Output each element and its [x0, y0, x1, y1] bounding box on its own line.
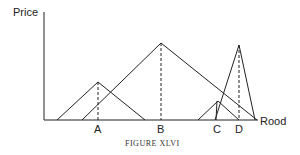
figure-caption: FIGURE XLVI — [125, 139, 180, 148]
point-label-a: A — [94, 123, 102, 135]
triangle-b — [82, 43, 257, 120]
triangle-d — [215, 45, 255, 120]
y-axis-label: Price — [13, 6, 38, 18]
figure-diagram: Price Rood A B C D FIGURE XLVI — [0, 0, 300, 155]
point-label-c: C — [213, 123, 221, 135]
x-axis-label: Rood — [260, 115, 286, 127]
point-label-d: D — [235, 123, 243, 135]
point-label-b: B — [157, 123, 164, 135]
